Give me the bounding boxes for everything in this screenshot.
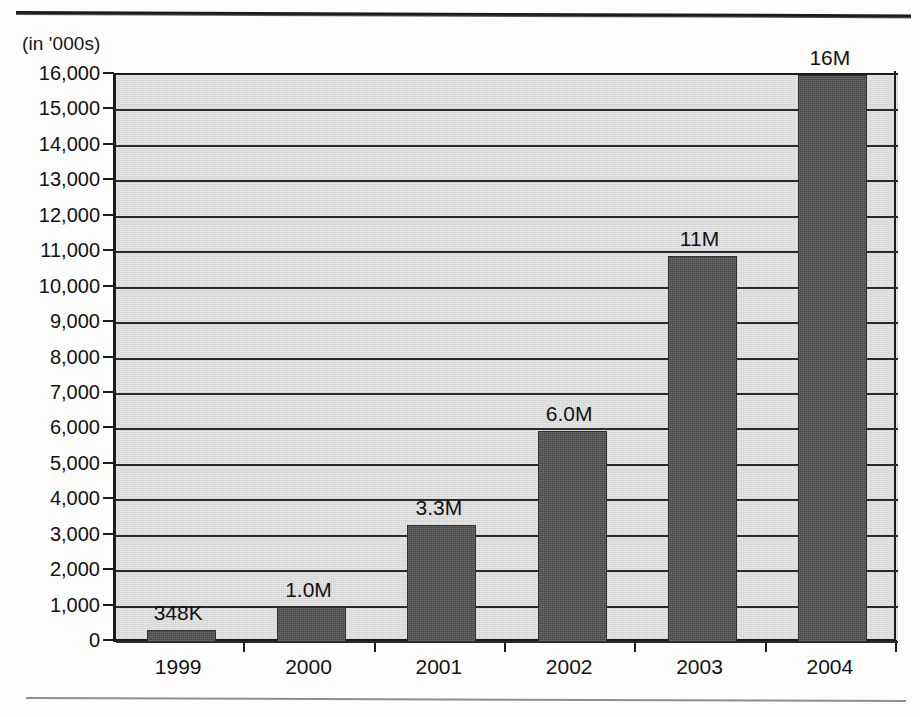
value-label-2002: 6.0M	[546, 402, 593, 426]
chart-figure: (in '000s) 01,0002,0003,0004,0005,0006,0…	[0, 0, 920, 717]
y-tick-mark	[103, 72, 114, 74]
y-tick-label: 11,000	[40, 239, 100, 262]
y-tick-label: 5,000	[50, 451, 100, 474]
y-tick-mark	[103, 249, 114, 251]
x-category-label-2001: 2001	[415, 655, 462, 679]
y-axis-tick-labels: 01,0002,0003,0004,0005,0006,0007,0008,00…	[0, 0, 100, 717]
gridline	[116, 499, 898, 501]
y-tick-label: 14,000	[39, 132, 100, 155]
y-tick-label: 12,000	[39, 203, 100, 226]
y-tick-mark	[103, 356, 114, 358]
y-tick-mark	[103, 178, 114, 180]
y-tick-label: 1,000	[50, 593, 100, 616]
y-tick-mark	[103, 426, 114, 428]
value-label-2004: 16M	[809, 46, 850, 70]
gridline	[116, 393, 898, 395]
y-tick-label: 0	[89, 629, 100, 652]
gridline	[116, 464, 898, 466]
y-tick-mark	[103, 533, 114, 535]
value-label-2000: 1.0M	[285, 578, 332, 602]
x-category-label-2003: 2003	[676, 655, 723, 679]
gridline	[116, 428, 898, 430]
y-tick-label: 7,000	[50, 380, 100, 403]
value-label-2001: 3.3M	[415, 496, 462, 520]
y-tick-label: 16,000	[39, 62, 100, 85]
y-tick-mark	[103, 285, 114, 287]
y-tick-mark	[103, 568, 114, 570]
plot-area	[113, 73, 898, 642]
value-label-1999: 348K	[154, 601, 203, 625]
y-tick-mark	[103, 214, 114, 216]
y-tick-mark	[103, 497, 114, 499]
y-tick-mark	[103, 320, 114, 322]
x-category-label-2000: 2000	[285, 655, 332, 679]
plot-right-border	[894, 71, 896, 642]
gridline	[116, 180, 898, 182]
gridline	[116, 322, 898, 324]
value-label-2003: 11M	[680, 227, 719, 251]
y-tick-label: 2,000	[50, 558, 100, 581]
y-tick-mark	[103, 462, 114, 464]
bar-1999	[147, 630, 216, 642]
y-tick-label: 4,000	[50, 487, 100, 510]
gridline	[116, 606, 898, 608]
top-divider-rule	[16, 11, 911, 18]
y-tick-label: 3,000	[50, 522, 100, 545]
y-tick-mark	[103, 143, 114, 145]
bar-2004	[798, 75, 867, 642]
bar-2003	[668, 256, 737, 642]
y-tick-mark	[103, 107, 114, 109]
gridline	[116, 287, 898, 289]
gridline	[116, 358, 898, 360]
x-category-label-2004: 2004	[806, 655, 853, 679]
gridline	[116, 109, 898, 111]
y-tick-label: 8,000	[50, 345, 100, 368]
gridline	[116, 535, 898, 537]
bar-2000	[277, 607, 346, 642]
y-tick-label: 15,000	[39, 97, 100, 120]
y-tick-mark	[103, 604, 114, 606]
gridline	[116, 641, 898, 643]
bar-2002	[538, 431, 607, 642]
y-tick-label: 9,000	[50, 310, 100, 333]
y-tick-label: 13,000	[39, 168, 100, 191]
gridline	[116, 145, 898, 147]
y-tick-mark	[103, 391, 114, 393]
bar-2001	[407, 525, 476, 642]
x-category-label-2002: 2002	[546, 655, 593, 679]
y-tick-label: 6,000	[50, 416, 100, 439]
gridline	[116, 251, 898, 253]
bottom-divider-rule	[26, 697, 906, 702]
x-category-label-1999: 1999	[155, 655, 202, 679]
y-tick-mark	[103, 639, 114, 641]
gridline	[116, 570, 898, 572]
y-tick-label: 10,000	[39, 274, 100, 297]
gridline	[116, 216, 898, 218]
